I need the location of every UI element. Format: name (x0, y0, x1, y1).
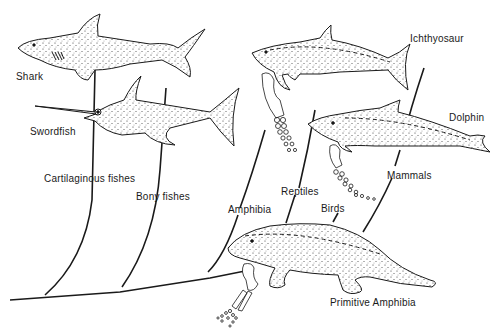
ichthyosaur-illustration (252, 25, 410, 90)
label-ichthyosaur: Ichthyosaur (410, 33, 464, 44)
label-reptiles: Reptiles (281, 186, 319, 197)
label-birds: Birds (321, 203, 345, 214)
label-mammals: Mammals (387, 170, 432, 181)
label-shark: Shark (16, 71, 43, 82)
branch-birds (333, 213, 338, 222)
primitive-amphibian-illustration (228, 224, 436, 294)
label-cartilaginous-fishes: Cartilaginous fishes (44, 173, 135, 184)
dolphin-flipper-bones (330, 145, 376, 201)
ichthyosaur-paddle-bones (262, 73, 297, 152)
shark-illustration (18, 14, 205, 80)
label-swordfish: Swordfish (30, 126, 76, 137)
branch-mammals (363, 68, 424, 232)
label-bony-fishes: Bony fishes (136, 191, 190, 202)
diagram-canvas (0, 0, 503, 329)
evolution-diagram: Shark Swordfish Ichthyosaur Dolphin Cart… (0, 0, 503, 329)
label-amphibia: Amphibia (228, 204, 271, 215)
dolphin-illustration (308, 100, 490, 152)
label-dolphin: Dolphin (449, 112, 484, 123)
label-primitive-amphibia: Primitive Amphibia (330, 297, 416, 308)
